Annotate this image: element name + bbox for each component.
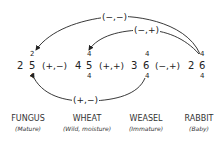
wheat-left-number: 4 — [75, 61, 81, 71]
fungus-bottom-number: 4 — [30, 73, 34, 80]
relation-fungus-wheat: (+,−) — [42, 62, 67, 71]
arrow-label-weasel-fungus: (+,−) — [72, 96, 99, 105]
fungus-left-number: 2 — [17, 61, 23, 71]
rabbit-top-number: 4 — [200, 51, 204, 58]
wheat-bottom-number: 4 — [87, 73, 91, 80]
weasel-bottom-number: 4 — [145, 73, 149, 80]
weasel-right-number: 6 — [143, 61, 149, 71]
relation-weasel-rabbit: (−,+) — [155, 62, 180, 71]
wheat-right-number: 5 — [86, 61, 92, 71]
weasel-label: WEASEL — [121, 115, 171, 123]
rabbit-state: (Baby) — [171, 126, 224, 132]
wheat-top-number: 4 — [87, 51, 91, 58]
fungus-right-number: 5 — [29, 61, 35, 71]
wheat-state: (Wild, moisture) — [59, 126, 115, 132]
wheat-label: WHEAT — [62, 115, 112, 123]
weasel-state: (Immature) — [118, 126, 174, 132]
arrow-label-rabbit-fungus: (−,−) — [101, 13, 128, 22]
rabbit-label: RABBIT — [174, 115, 224, 123]
rabbit-right-number: 6 — [199, 61, 205, 71]
fungus-state: (Mature) — [0, 126, 56, 132]
weasel-top-number: 4 — [145, 51, 149, 58]
rabbit-left-number: 2 — [188, 61, 194, 71]
relation-wheat-weasel: (+,+) — [99, 62, 124, 71]
weasel-left-number: 3 — [131, 61, 137, 71]
fungus-label: FUNGUS — [3, 115, 53, 123]
fungus-top-number: 2 — [30, 51, 34, 58]
rabbit-bottom-number: 4 — [200, 73, 204, 80]
arrow-label-rabbit-wheat: (−,+) — [133, 26, 160, 35]
